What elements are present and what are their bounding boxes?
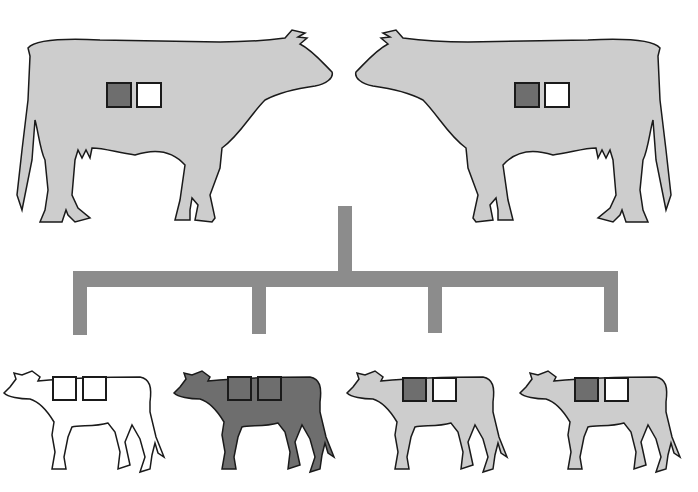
connector-drop-1 (73, 285, 87, 335)
allele-white-box (53, 377, 76, 400)
connector-drop-3 (428, 285, 442, 333)
allele-dark-box (403, 378, 426, 401)
connector-drop-4 (604, 285, 618, 332)
parent-cow-left (17, 30, 332, 222)
connector-stem (338, 206, 352, 272)
allele-white-box (83, 377, 106, 400)
offspring-calf-4 (520, 371, 680, 472)
inheritance-diagram (0, 0, 698, 492)
allele-white-box (545, 83, 569, 107)
connector-drop-2 (252, 285, 266, 334)
allele-dark-box (228, 377, 251, 400)
allele-white-box (433, 378, 456, 401)
allele-dark-box (107, 83, 131, 107)
allele-white-box (605, 378, 628, 401)
pedigree-connector (73, 206, 618, 335)
allele-dark-box (258, 377, 281, 400)
offspring-calf-1 (4, 371, 164, 472)
offspring-calf-2 (174, 371, 334, 472)
offspring-calf-3 (347, 371, 507, 472)
allele-white-box (137, 83, 161, 107)
allele-dark-box (575, 378, 598, 401)
allele-dark-box (515, 83, 539, 107)
parent-cow-right (356, 30, 671, 222)
connector-bar (73, 271, 618, 287)
